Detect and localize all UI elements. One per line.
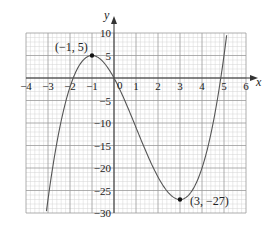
y-tick-label: −30 xyxy=(94,207,112,219)
x-tick-label: 5 xyxy=(221,80,227,92)
y-axis-label: y xyxy=(103,8,110,22)
x-tick-label: −4 xyxy=(20,80,32,92)
y-tick-label: −25 xyxy=(94,185,112,197)
x-tick-label: −3 xyxy=(42,80,54,92)
y-tick-label: 5 xyxy=(106,50,112,62)
min-point-label: (3, −27) xyxy=(190,194,229,208)
turning-point-marker xyxy=(90,53,94,57)
origin-label: 0 xyxy=(117,79,123,91)
x-tick-label: 3 xyxy=(177,80,183,92)
y-tick-label: −15 xyxy=(94,140,112,152)
x-tick-label: 2 xyxy=(155,80,161,92)
turning-point-marker xyxy=(178,197,182,201)
x-tick-label: −1 xyxy=(86,80,98,92)
y-tick-label: −20 xyxy=(94,162,112,174)
x-tick-label: 6 xyxy=(243,80,249,92)
x-tick-label: 4 xyxy=(199,80,205,92)
cubic-graph: −4−3−2−1123456105−5−10−15−20−25−30 x y 0… xyxy=(0,0,272,228)
y-tick-label: −10 xyxy=(94,117,112,129)
y-tick-label: 10 xyxy=(100,27,112,39)
y-tick-label: −5 xyxy=(99,95,111,107)
x-axis-label: x xyxy=(255,75,262,89)
x-tick-label: 1 xyxy=(133,80,139,92)
max-point-label: (−1, 5) xyxy=(55,40,88,54)
